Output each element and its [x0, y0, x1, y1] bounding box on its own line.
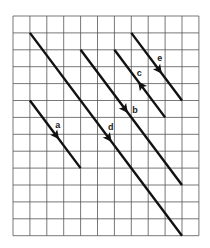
vector-label: e: [157, 53, 162, 63]
vector-grid-diagram: abcde: [0, 0, 210, 248]
vector-label: d: [108, 122, 114, 132]
vector-label: c: [137, 68, 142, 78]
vector-label: b: [132, 105, 138, 115]
vector-label: a: [55, 120, 61, 130]
